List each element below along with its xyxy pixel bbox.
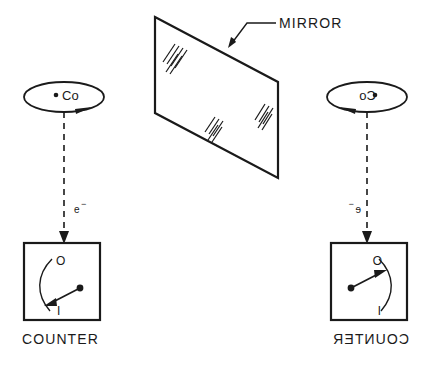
right-spin-arrowhead: [339, 107, 356, 114]
parity-mirror-figure: MIRROR Co e − O I COUNTER: [0, 0, 431, 366]
mirror-hatch-right: [255, 104, 273, 130]
mirror-leader-line: [228, 23, 276, 48]
left-electron-label: e: [74, 204, 80, 215]
mirror-hatch-upper-left: [163, 44, 187, 74]
right-needle-arrowhead: [374, 270, 387, 278]
mirror-group: MIRROR: [155, 15, 342, 178]
left-apparatus: Co e − O I COUNTER: [22, 82, 104, 347]
right-nucleus-label: Co: [359, 88, 376, 103]
right-counter-box: [331, 243, 407, 320]
left-needle-arrowhead: [44, 298, 57, 306]
mirror-panel: [155, 17, 278, 178]
left-spin-arrowhead: [75, 107, 92, 114]
left-counter-caption: COUNTER: [22, 331, 99, 347]
right-apparatus: Co e − O I COUNTER: [327, 82, 409, 347]
left-nucleus-label: Co: [62, 88, 79, 103]
right-electron-charge: −: [349, 199, 354, 209]
right-counter-caption: COUNTER: [332, 331, 409, 347]
left-nucleus-dot: [54, 93, 59, 98]
right-meter-bottom-label: I: [378, 304, 381, 318]
left-electron-charge: −: [81, 199, 86, 209]
left-meter-bottom-label: I: [57, 304, 60, 318]
left-meter-top-label: O: [56, 254, 65, 268]
mirror-label: MIRROR: [279, 15, 342, 31]
figure-canvas: MIRROR Co e − O I COUNTER: [0, 0, 431, 366]
mirror-hatch-center: [205, 117, 223, 142]
right-electron-label: e: [355, 204, 361, 215]
